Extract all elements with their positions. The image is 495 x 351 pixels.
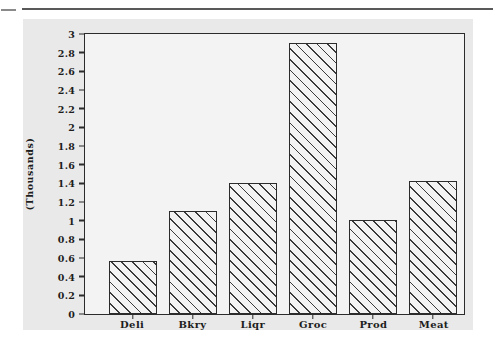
bar-slot [223,34,283,314]
y-axis-tick: 2.4 [58,85,85,96]
y-axis-tick-label: 3 [68,29,79,40]
y-axis-tick-label: 2.2 [58,103,79,114]
y-axis-tick: 0.2 [58,290,85,301]
y-axis-tick-label: 0.8 [58,234,79,245]
bar-groc[interactable] [289,43,337,314]
chart-panel: (Thousands) 00.20.40.60.811.21.41.61.822… [23,19,473,330]
bar-deli[interactable] [109,261,157,314]
y-axis-tick: 1 [68,215,85,226]
y-axis-tick-label: 1.4 [58,178,79,189]
y-axis-tick: 2.6 [58,66,85,77]
y-axis-tick: 1.2 [58,197,85,208]
bar-slot [103,34,163,314]
y-axis-title: (Thousands) [24,137,35,210]
x-axis-label-prod: Prod [343,319,403,330]
y-axis-tick-label: 1 [68,215,79,226]
y-axis-tick-label: 1.2 [58,197,79,208]
y-axis-tick-label: 0.4 [58,271,79,282]
y-axis-tick: 0.4 [58,271,85,282]
y-axis-tick-label: 1.6 [58,159,79,170]
plot-area: 00.20.40.60.811.21.41.61.822.22.42.62.83 [84,33,465,315]
bar-slot [163,34,223,314]
y-axis-tick: 0.6 [58,253,85,264]
y-axis-tick-label: 2.8 [58,47,79,58]
y-axis-tick: 3 [68,29,85,40]
bar-meat[interactable] [409,181,457,314]
x-axis-labels: DeliBkryLiqrGrocProdMeat [84,319,465,330]
page-horizontal-rule [22,8,493,10]
bar-bkry[interactable] [169,211,217,314]
scan-artifact-dash [1,9,16,11]
y-axis-tick-label: 0 [68,309,79,320]
bar-slot [343,34,403,314]
y-axis-tick: 1.4 [58,178,85,189]
y-axis-tick-label: 0.2 [58,290,79,301]
x-axis-label-meat: Meat [404,319,464,330]
x-axis-label-liqr: Liqr [223,319,283,330]
bar-slot [283,34,343,314]
bar-liqr[interactable] [229,183,277,314]
y-axis-tick-label: 2.4 [58,85,79,96]
y-axis-tick: 1.8 [58,141,85,152]
bar-series [85,34,464,314]
y-axis-tick: 2 [68,122,85,133]
y-axis-tick-label: 1.8 [58,141,79,152]
x-axis-label-deli: Deli [102,319,162,330]
y-axis-tick-label: 2.6 [58,66,79,77]
y-axis-tick-label: 2 [68,122,79,133]
y-axis-tick: 1.6 [58,159,85,170]
bar-prod[interactable] [349,220,397,314]
y-axis-tick: 0.8 [58,234,85,245]
bar-slot [403,34,463,314]
y-axis-tick: 0 [68,309,85,320]
y-axis-tick: 2.8 [58,47,85,58]
y-axis-tick-label: 0.6 [58,253,79,264]
x-axis-label-groc: Groc [283,319,343,330]
y-axis-tick: 2.2 [58,103,85,114]
x-axis-label-bkry: Bkry [162,319,222,330]
